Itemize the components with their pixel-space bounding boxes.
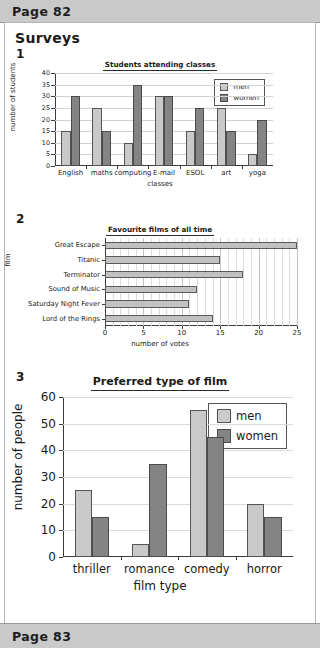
chart-1-y-tick	[51, 154, 55, 155]
page-header: Page 82	[0, 0, 320, 23]
chart-1-bar-e-mail-men	[155, 96, 164, 166]
chart-3-y-tick	[59, 450, 63, 451]
chart-3-y-tick-label: 10	[41, 523, 56, 537]
chart-2-minor-gridline	[166, 238, 167, 326]
chart-1-bar-maths-men	[92, 108, 101, 166]
chart-3-bar-comedy-men	[190, 410, 207, 557]
chart-2-minor-gridline	[251, 238, 252, 326]
chart-1-y-tick	[51, 108, 55, 109]
chart-1-bar-computing-men	[124, 143, 133, 166]
chart-1-y-tick-label: 10	[42, 139, 50, 147]
chart-1-plot-area: men women 0510152025303540Englishmathsco…	[55, 73, 273, 166]
chart-2-bar-titanic	[105, 256, 220, 264]
chart-1-y-tick	[51, 73, 55, 74]
chart-2-major-gridline	[182, 238, 183, 326]
chart-2-major-gridline	[143, 238, 144, 326]
chart-1-bar-esol-women	[195, 108, 204, 166]
chart-2-minor-gridline	[243, 238, 244, 326]
chart-3-y-tick-label: 20	[41, 497, 56, 511]
chart-1-legend: men women	[214, 79, 265, 106]
chart-3-x-axis-label: film type	[9, 579, 311, 593]
chart-2-bar-sound-of-music	[105, 286, 197, 294]
chart-3-bar-comedy-women	[207, 437, 224, 557]
chart-2-minor-gridline	[236, 238, 237, 326]
chart-3-bar-thriller-men	[75, 490, 92, 557]
chart-3-x-tick-label: comedy	[184, 562, 230, 576]
chart-1-x-tick-label: art	[221, 169, 231, 177]
chart-1-title: Students attending classes	[103, 61, 217, 71]
chart-1-x-separator-tick	[86, 166, 87, 169]
chart-2-title: Favourite films of all time	[106, 226, 214, 236]
chart-1-students-attending-classes: 1 Students attending classes men women	[9, 47, 311, 188]
chart-1-y-tick	[51, 166, 55, 167]
chart-1-bar-yoga-women	[257, 120, 266, 167]
chart-2-y-category-label: Terminator	[64, 271, 100, 279]
chart-1-bar-art-men	[217, 108, 226, 166]
chart-3-y-tick-label: 40	[41, 443, 56, 457]
chart-3-y-tick-label: 30	[41, 470, 56, 484]
chart-1-bar-art-women	[226, 131, 235, 166]
chart-2-plot-area: 0510152025Great EscapeTitanicTerminatorS…	[105, 238, 297, 326]
chart-2-minor-gridline	[213, 238, 214, 326]
chart-2-y-tick	[102, 289, 105, 290]
legend-label-men: men	[236, 409, 262, 423]
chart-3-gridline	[63, 450, 293, 451]
chart-1-x-tick-label: E-mail	[153, 169, 175, 177]
chart-1-x-separator-tick	[180, 166, 181, 169]
chart-1-x-separator-tick	[211, 166, 212, 169]
chart-2-minor-gridline	[128, 238, 129, 326]
legend-label-women: women	[236, 429, 278, 443]
chart-3-gridline	[63, 424, 293, 425]
chart-1-y-tick-label: 15	[42, 127, 50, 135]
chart-1-gridline	[55, 85, 273, 86]
worksheet-page: Page 82 Surveys 1 Students attending cla…	[0, 0, 320, 648]
chart-1-y-tick	[51, 143, 55, 144]
chart-2-minor-gridline	[113, 238, 114, 326]
worksheet-body: Surveys 1 Students attending classes men…	[4, 22, 316, 624]
chart-1-y-axis-label: number of students	[9, 57, 17, 137]
chart-3-preferred-type-of-film: 3 Preferred type of film men women	[9, 370, 311, 593]
chart-1-x-tick-label: computing	[114, 169, 151, 177]
chart-1-bar-e-mail-women	[164, 96, 173, 166]
chart-1-y-tick-label: 30	[42, 92, 50, 100]
chart-3-y-tick-label: 50	[41, 417, 56, 431]
chart-3-y-tick	[59, 424, 63, 425]
chart-3-bar-romance-women	[149, 464, 166, 557]
chart-2-minor-gridline	[120, 238, 121, 326]
chart-3-x-tick-label: thriller	[73, 562, 111, 576]
chart-3-bar-romance-men	[132, 544, 149, 557]
chart-1-y-tick	[51, 131, 55, 132]
chart-3-y-tick	[59, 530, 63, 531]
chart-2-x-tick-label: 5	[141, 329, 145, 337]
chart-3-y-tick	[59, 504, 63, 505]
chart-2-x-tick-label: 25	[293, 329, 302, 337]
chart-2-y-category-label: Saturday Night Fever	[28, 300, 100, 308]
chart-3-y-tick-label: 60	[41, 390, 56, 404]
chart-1-y-tick	[51, 120, 55, 121]
chart-1-bar-maths-women	[102, 131, 111, 166]
chart-1-bar-computing-women	[133, 85, 142, 166]
chart-3-bar-thriller-women	[92, 517, 109, 557]
chart-3-x-separator-tick	[178, 557, 179, 560]
chart-2-x-tick-label: 0	[103, 329, 107, 337]
chart-2-minor-gridline	[174, 238, 175, 326]
chart-1-gridline	[55, 73, 273, 74]
chart-2-y-tick	[102, 319, 105, 320]
chart-3-y-tick-label: 0	[48, 550, 56, 564]
chart-2-x-tick-label: 20	[254, 329, 263, 337]
chart-1-x-tick-label: maths	[91, 169, 113, 177]
chart-2-bar-saturday-night-fever	[105, 300, 189, 308]
chart-2-x-axis-label: number of votes	[9, 340, 311, 348]
chart-2-y-tick	[102, 304, 105, 305]
chart-2-bar-terminator	[105, 271, 243, 279]
chart-2-minor-gridline	[282, 238, 283, 326]
chart-1-y-tick-label: 5	[46, 150, 50, 158]
chart-2-y-category-label: Lord of the Rings	[42, 315, 100, 323]
chart-2-bar-lord-of-the-rings	[105, 315, 213, 323]
chart-3-bar-horror-women	[264, 517, 281, 557]
legend-swatch-women-icon	[220, 94, 228, 102]
header-page-label: Page 82	[12, 4, 71, 19]
legend-entry-women: women	[220, 94, 259, 102]
chart-2-x-axis	[105, 325, 297, 326]
chart-3-x-separator-tick	[236, 557, 237, 560]
